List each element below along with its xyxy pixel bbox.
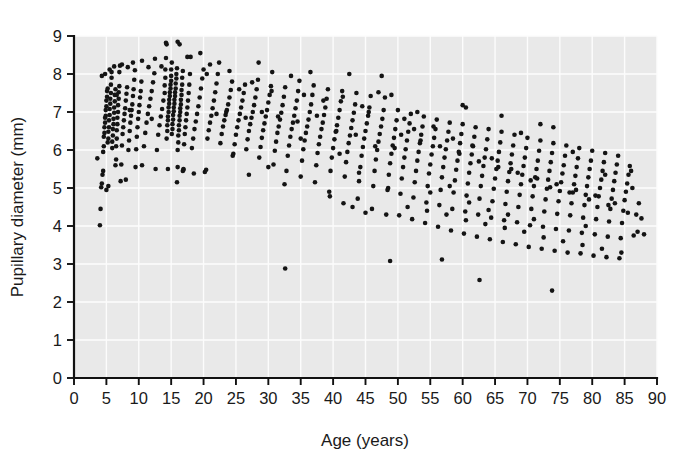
data-point (289, 74, 294, 79)
data-point (525, 136, 530, 141)
data-point (310, 93, 315, 98)
data-point (550, 151, 555, 156)
data-point (429, 152, 434, 157)
data-point (467, 200, 472, 205)
data-point (160, 107, 165, 112)
data-point (147, 104, 152, 109)
x-tick-label: 85 (615, 389, 633, 407)
data-point (239, 105, 244, 110)
data-point (170, 60, 175, 65)
data-point (331, 146, 336, 151)
data-point (117, 84, 122, 89)
data-point (438, 188, 443, 193)
data-point (315, 151, 320, 156)
data-point (205, 136, 210, 141)
data-point (355, 196, 360, 201)
data-point (293, 106, 298, 111)
data-point (106, 136, 111, 141)
data-point (613, 201, 618, 206)
data-point (383, 95, 388, 100)
data-point (642, 232, 647, 237)
data-point (136, 110, 141, 115)
data-point (165, 123, 170, 128)
data-point (131, 94, 136, 99)
data-point (103, 120, 108, 125)
data-point (322, 113, 327, 118)
data-point (107, 118, 112, 123)
data-point (539, 247, 544, 252)
data-point (109, 82, 114, 87)
data-point (163, 76, 168, 81)
data-point (498, 140, 503, 145)
data-point (256, 77, 261, 82)
data-point (280, 103, 285, 108)
data-point (341, 201, 346, 206)
data-point (155, 148, 160, 153)
data-point (392, 146, 397, 151)
data-point (179, 88, 184, 93)
data-point (376, 90, 381, 95)
data-point (399, 176, 404, 181)
data-point (387, 172, 392, 177)
data-point (585, 184, 590, 189)
y-tick-label: 2 (53, 293, 62, 311)
data-point (269, 84, 274, 89)
data-point (179, 93, 184, 98)
data-point (555, 212, 560, 217)
x-tick-label: 15 (162, 389, 180, 407)
data-point (627, 164, 632, 169)
data-point (519, 131, 524, 136)
data-point (425, 184, 430, 189)
data-point (350, 205, 355, 210)
data-point (227, 95, 232, 100)
data-point (113, 163, 118, 168)
data-point (420, 124, 425, 129)
data-point (576, 156, 581, 161)
data-point (370, 207, 375, 212)
data-point (140, 163, 145, 168)
data-point (392, 136, 397, 141)
data-point (102, 144, 107, 149)
data-point (247, 172, 252, 177)
data-point (208, 120, 213, 125)
data-point (131, 87, 136, 92)
data-point (543, 197, 548, 202)
data-point (276, 114, 281, 119)
data-point (190, 146, 195, 151)
data-point (103, 114, 108, 119)
data-point (379, 74, 384, 79)
data-point (587, 167, 592, 172)
data-point (535, 176, 540, 181)
data-point (191, 136, 196, 141)
data-point (256, 60, 261, 65)
data-point (353, 133, 358, 138)
data-point (431, 144, 436, 149)
data-point (327, 190, 332, 195)
data-point (607, 219, 612, 224)
data-point (604, 255, 609, 260)
data-point (574, 165, 579, 170)
data-point (639, 216, 644, 221)
data-point (373, 144, 378, 149)
data-point (447, 120, 452, 125)
data-point (594, 217, 599, 222)
data-point (107, 113, 112, 118)
data-point (402, 117, 407, 122)
data-point (512, 133, 517, 138)
data-point (111, 133, 116, 138)
data-point (519, 182, 524, 187)
data-point (416, 150, 421, 155)
x-tick-label: 30 (259, 389, 277, 407)
data-point (376, 139, 381, 144)
data-point (135, 134, 140, 139)
data-point (296, 89, 301, 94)
data-point (357, 179, 362, 184)
data-point (107, 67, 112, 72)
data-point (523, 155, 528, 160)
data-point (136, 117, 141, 122)
x-tick-label: 60 (453, 389, 471, 407)
data-point (554, 227, 559, 232)
data-point (138, 89, 143, 94)
data-point (206, 128, 211, 133)
data-point (204, 167, 209, 172)
